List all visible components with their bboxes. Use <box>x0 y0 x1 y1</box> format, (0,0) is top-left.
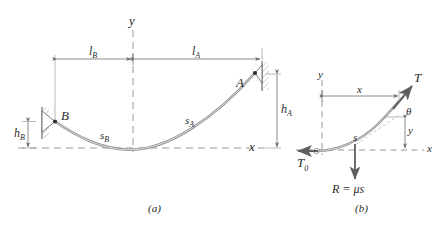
load-r-label: R = μs <box>332 182 364 197</box>
height-h-a-label: hA <box>281 102 292 118</box>
panel-b-dim-y-label: y <box>408 124 413 136</box>
arc-length-a-label: sA <box>185 114 194 129</box>
tension-t0-subscript: 0 <box>304 164 308 173</box>
panel-a-y-axis-label: y <box>129 13 135 29</box>
span-l-a-label: lA <box>192 44 200 60</box>
cable-curve <box>55 73 255 150</box>
tension-t-label: T <box>414 70 421 86</box>
arc-length-a-subscript: A <box>189 120 194 129</box>
span-l-b-subscript: B <box>92 51 97 60</box>
arc-length-b-label: sB <box>100 129 109 144</box>
support-a-label: A <box>236 75 244 91</box>
height-h-b-subscript: B <box>20 133 25 142</box>
panel-a-x-axis-label: x <box>249 139 255 155</box>
angle-theta-label: θ <box>406 105 411 117</box>
figure-canvas: y x A B sA sB lB lA hA hB (a) y x T T0 θ… <box>0 0 445 229</box>
tension-t0-label: T0 <box>297 155 308 173</box>
panel-b-dim-x-label: x <box>357 83 362 95</box>
span-l-b-label: lB <box>89 44 97 60</box>
height-h-a-subscript: A <box>287 109 292 118</box>
arc-length-b-subscript: B <box>104 135 109 144</box>
caption-b: (b) <box>355 202 368 214</box>
panel-b-x-axis-label: x <box>427 142 432 154</box>
angle-theta-marks <box>355 115 404 145</box>
panel-b-cable <box>314 101 399 154</box>
panel-b-y-axis-label: y <box>318 68 323 80</box>
support-a <box>253 61 269 91</box>
caption-a: (a) <box>148 202 161 214</box>
panel-b-arc-label: s <box>353 131 357 143</box>
height-h-b-label: hB <box>14 126 25 142</box>
support-b-label: B <box>61 108 69 124</box>
span-l-a-subscript: A <box>195 51 200 60</box>
